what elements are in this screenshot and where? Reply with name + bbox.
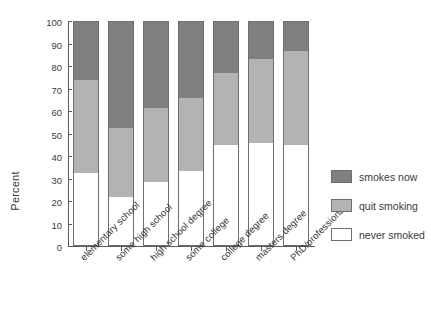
y-axis-tick-mark [68,201,72,202]
bar-segment-quit-smoking[interactable] [248,59,274,142]
legend-swatch-quit-smoking [331,199,352,212]
y-axis-tick-mark [68,111,72,112]
y-axis-tick-label: 40 [51,152,68,163]
y-axis-tick-mark [68,179,72,180]
y-axis-tick-mark [68,246,72,247]
bar-segment-smokes-now[interactable] [108,21,134,128]
legend-item-never-smoked[interactable]: never smoked [331,228,425,241]
stacked-bar-chart: Percent 100 90 80 70 60 50 40 30 20 10 0… [0,0,431,326]
legend: smokes now quit smoking never smoked [331,170,425,257]
legend-label-never-smoked: never smoked [359,229,425,241]
y-axis-tick-label: 100 [46,17,68,28]
bar-segment-quit-smoking[interactable] [73,80,99,173]
y-axis-tick: 40 [51,147,68,165]
y-axis-tick-mark [68,44,72,45]
bar-segment-quit-smoking[interactable] [143,108,169,182]
y-axis-tick: 60 [51,102,68,120]
y-axis-tick-mark [68,156,72,157]
bar-segment-smokes-now[interactable] [283,21,309,51]
y-axis-tick-label: 30 [51,175,68,186]
bar-segment-smokes-now[interactable] [73,21,99,80]
bar-segment-quit-smoking[interactable] [108,128,134,197]
bar-segment-smokes-now[interactable] [248,21,274,59]
y-axis-tick-label: 90 [51,40,68,51]
legend-item-quit-smoking[interactable]: quit smoking [331,199,425,212]
y-axis-tick-label: 50 [51,130,68,141]
bar-stack[interactable] [213,21,239,246]
y-axis-tick-mark [68,66,72,67]
y-axis-tick: 100 [46,12,68,30]
y-axis-tick-label: 80 [51,62,68,73]
y-axis-tick-mark [68,134,72,135]
y-axis-tick-mark [68,224,72,225]
bar-segment-quit-smoking[interactable] [213,73,239,145]
y-axis-title: Percent [9,151,21,231]
y-axis-tick-mark [68,89,72,90]
y-axis-tick: 80 [51,57,68,75]
y-axis-tick: 20 [51,192,68,210]
y-axis-tick-label: 20 [51,197,68,208]
y-axis-tick: 90 [51,35,68,53]
legend-label-smokes-now: smokes now [359,171,417,183]
bar-segment-smokes-now[interactable] [143,21,169,108]
y-axis-tick: 30 [51,170,68,188]
y-axis-tick: 70 [51,80,68,98]
bar-segment-smokes-now[interactable] [178,21,204,98]
y-axis-tick: 50 [51,125,68,143]
bar-segment-never-smoked[interactable] [73,173,99,246]
y-axis-tick-label: 70 [51,85,68,96]
y-axis-tick-label: 0 [57,242,68,253]
y-axis-tick-mark [68,21,72,22]
y-axis-tick: 10 [51,215,68,233]
y-axis-tick-label: 60 [51,107,68,118]
legend-item-smokes-now[interactable]: smokes now [331,170,425,183]
bar-segment-quit-smoking[interactable] [178,98,204,171]
legend-swatch-never-smoked [331,228,352,241]
bar-stack[interactable] [73,21,99,246]
y-axis-tick: 0 [57,237,68,255]
y-axis-tick-label: 10 [51,220,68,231]
legend-label-quit-smoking: quit smoking [359,200,418,212]
bar-segment-smokes-now[interactable] [213,21,239,73]
legend-swatch-smokes-now [331,170,352,183]
bar-segment-quit-smoking[interactable] [283,51,309,144]
